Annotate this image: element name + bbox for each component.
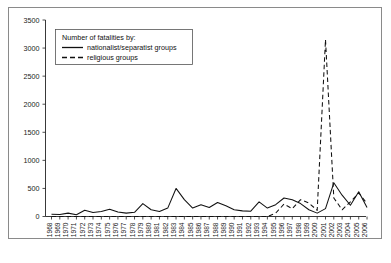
x-axis-tick-label: 1980 <box>145 222 152 237</box>
x-axis-tick-label: 1999 <box>303 222 310 237</box>
x-axis-tick-label: 2004 <box>344 222 351 237</box>
x-axis-tick-label: 1995 <box>270 222 277 237</box>
x-axis-tick-label: 1983 <box>170 222 177 237</box>
x-axis-tick-label: 1979 <box>137 222 144 237</box>
x-axis-tick-group: 1968196919701971197219731974197519761977… <box>46 217 369 238</box>
chart-legend: Number of fatalities by: nationalist/sep… <box>56 30 193 65</box>
y-axis-tick-label: 2500 <box>24 72 40 81</box>
x-axis-tick-label: 1974 <box>95 222 102 237</box>
x-axis-tick-label: 2003 <box>336 222 343 237</box>
x-axis-tick-label: 1972 <box>79 222 86 237</box>
y-axis-tick-label: 3000 <box>24 44 40 53</box>
x-axis-tick-label: 2002 <box>328 222 335 237</box>
x-axis-tick-label: 1984 <box>178 222 185 237</box>
legend-label-nationalist-separatist: nationalist/separatist groups <box>87 43 177 52</box>
x-axis-tick-label: 1971 <box>70 222 77 237</box>
x-axis-tick-label: 1987 <box>203 222 210 237</box>
x-axis-tick-label: 2006 <box>361 222 368 237</box>
x-axis-tick-label: 1969 <box>54 222 61 237</box>
x-axis-tick-label: 1994 <box>261 222 268 237</box>
x-axis-tick-label: 1982 <box>162 222 169 237</box>
legend-title: Number of fatalities by: <box>62 33 136 42</box>
x-axis-tick-label: 1996 <box>278 222 285 237</box>
x-axis-tick-label: 1968 <box>46 222 53 237</box>
x-axis-tick-label: 1992 <box>245 222 252 237</box>
y-axis-tick-label: 500 <box>28 184 40 193</box>
chart-canvas: 0500100015002000250030003500 19681969197… <box>0 0 391 263</box>
x-axis-tick-label: 1975 <box>104 222 111 237</box>
line-chart-svg: 0500100015002000250030003500 19681969197… <box>0 0 391 263</box>
x-axis-tick-label: 1997 <box>286 222 293 237</box>
x-axis-tick-label: 1970 <box>62 222 69 237</box>
x-axis-tick-label: 2001 <box>320 222 327 237</box>
y-axis-tick-label: 1000 <box>24 156 40 165</box>
legend-label-religious: religious groups <box>87 53 138 62</box>
x-axis-tick-label: 1973 <box>87 222 94 237</box>
x-axis-tick-label: 1988 <box>212 222 219 237</box>
chart-screenshot: 0500100015002000250030003500 19681969197… <box>0 0 391 263</box>
x-axis-tick-label: 1998 <box>295 222 302 237</box>
y-axis-tick-label: 3500 <box>24 16 40 25</box>
x-axis-tick-label: 1993 <box>253 222 260 237</box>
x-axis-tick-label: 1977 <box>120 222 127 237</box>
series-line-nationalist-separatist <box>52 183 368 215</box>
y-axis-tick-label: 1500 <box>24 128 40 137</box>
x-axis-tick-label: 1989 <box>220 222 227 237</box>
y-axis-tick-group: 0500100015002000250030003500 <box>24 16 46 222</box>
x-axis-tick-label: 1990 <box>228 222 235 237</box>
y-axis-tick-label: 0 <box>36 212 40 221</box>
y-axis-tick-label: 2000 <box>24 100 40 109</box>
x-axis-tick-label: 1976 <box>112 222 119 237</box>
x-axis-tick-label: 1978 <box>129 222 136 237</box>
series-line-religious <box>52 40 368 217</box>
x-axis-tick-label: 2000 <box>311 222 318 237</box>
x-axis-tick-label: 1985 <box>187 222 194 237</box>
x-axis-tick-label: 1986 <box>195 222 202 237</box>
x-axis-tick-label: 1991 <box>236 222 243 237</box>
x-axis-tick-label: 2005 <box>353 222 360 237</box>
x-axis-tick-label: 1981 <box>153 222 160 237</box>
